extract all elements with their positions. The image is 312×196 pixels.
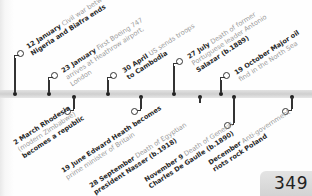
connector-line	[220, 77, 225, 81]
connector-line	[199, 97, 201, 103]
connector-line	[107, 77, 112, 81]
connector-line	[48, 77, 53, 81]
event-ring-icon	[131, 108, 138, 115]
page-number: 349	[274, 173, 308, 193]
connector-line	[107, 80, 109, 93]
connector-line	[173, 66, 175, 93]
connector-line	[220, 80, 222, 93]
page-number-tab: 349	[260, 171, 312, 196]
connector-line	[14, 55, 19, 59]
connector-line	[173, 63, 178, 67]
connector-line	[14, 58, 16, 93]
event-2-march: 2 March Rhodesia (modern Zimbabwe) becom…	[12, 101, 86, 161]
connector-line	[48, 80, 50, 93]
connector-line	[233, 97, 235, 123]
book-page: 12 January Civil war between Nigeria and…	[0, 0, 312, 196]
